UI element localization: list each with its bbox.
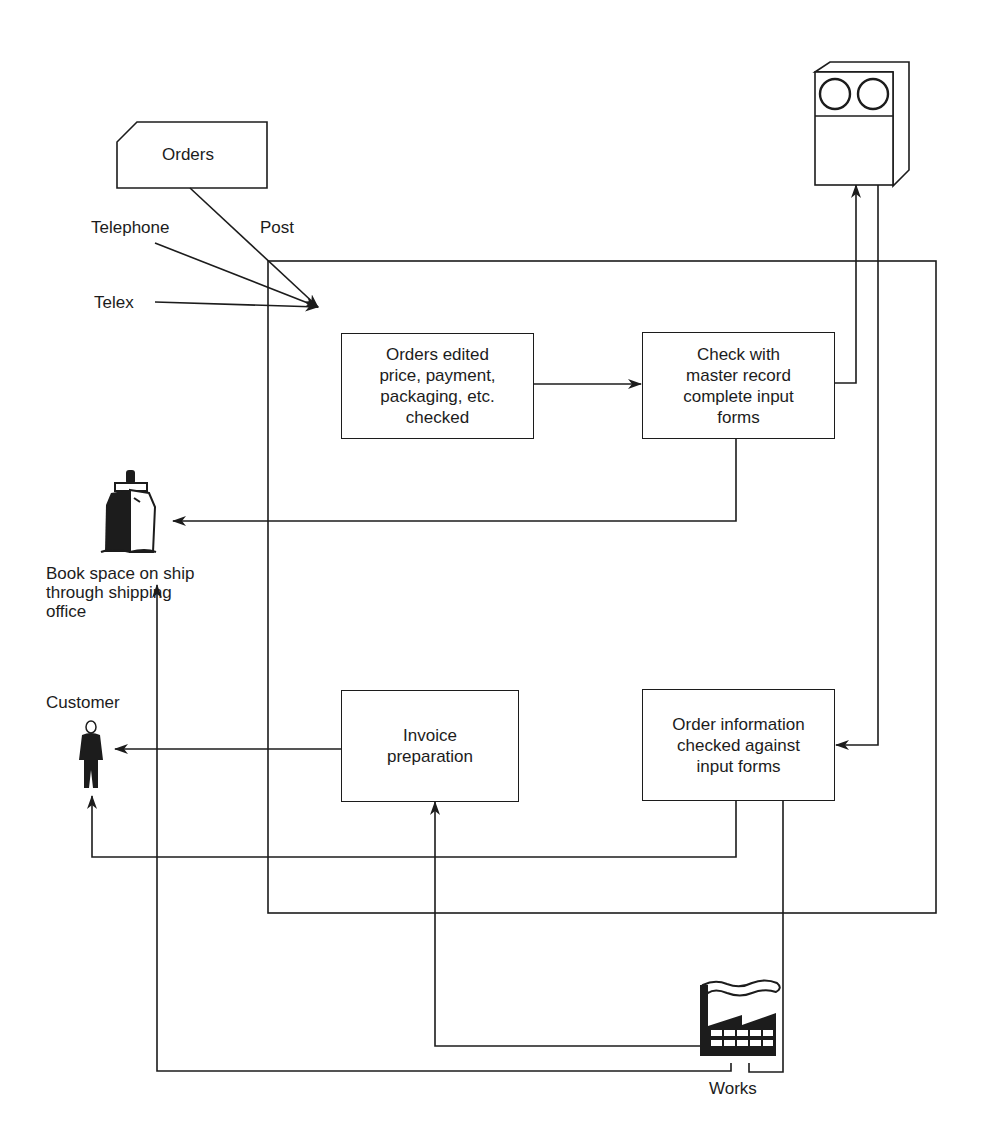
orders-card-label: Orders: [162, 144, 214, 165]
orders-edited-text: Orders edited price, payment, packaging,…: [379, 344, 495, 428]
invoice-text: Invoice preparation: [387, 725, 473, 767]
ship-icon: [101, 470, 156, 552]
post-label: Post: [260, 217, 294, 238]
works-label: Works: [709, 1078, 757, 1099]
telex-label: Telex: [94, 292, 134, 313]
check-master-text: Check with master record complete input …: [683, 344, 794, 428]
orderinfo-to-customer-arrow: [92, 796, 736, 857]
post-line: [190, 188, 318, 307]
works-to-invoice-arrow: [435, 802, 700, 1046]
customer-label: Customer: [46, 692, 120, 713]
order-info-box: Order information checked against input …: [642, 689, 835, 801]
ship-label: Book space on ship through shipping offi…: [46, 564, 194, 621]
check-master-box: Check with master record complete input …: [642, 332, 835, 439]
check-to-computer-arrow: [834, 185, 856, 383]
orders-edited-box: Orders edited price, payment, packaging,…: [341, 333, 534, 439]
person-icon: [79, 721, 103, 788]
telephone-label: Telephone: [91, 217, 169, 238]
factory-icon: [700, 981, 780, 1057]
works-to-ship-arrow: [157, 585, 731, 1071]
order-info-text: Order information checked against input …: [672, 714, 804, 777]
invoice-box: Invoice preparation: [341, 690, 519, 802]
check-to-ship-arrow: [173, 438, 736, 521]
telex-line: [155, 302, 318, 307]
computer-tape-unit-icon: [815, 62, 909, 186]
telephone-line: [155, 243, 318, 307]
computer-to-orderinfo-arrow: [836, 184, 878, 745]
